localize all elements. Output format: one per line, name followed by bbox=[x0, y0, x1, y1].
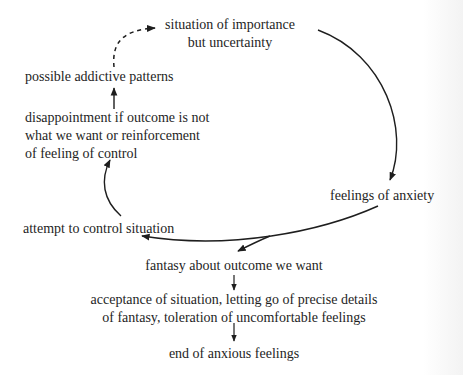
node-disappointment-line-3: of feeling of control bbox=[25, 145, 209, 163]
node-situation-line-1: situation of importance bbox=[162, 16, 298, 34]
arrow-addictive-to-situation bbox=[114, 28, 155, 67]
arrow-anxiety-to-control bbox=[142, 206, 378, 241]
arrow-control-to-disappointment bbox=[104, 160, 121, 216]
node-situation-line-2: but uncertainty bbox=[162, 34, 298, 52]
node-acceptance-line-1: acceptance of situation, letting go of p… bbox=[60, 291, 408, 309]
node-attempt-to-control: attempt to control situation bbox=[23, 220, 174, 238]
node-addictive-patterns: possible addictive patterns bbox=[25, 68, 174, 86]
node-disappointment: disappointment if outcome is not what we… bbox=[25, 109, 209, 163]
node-disappointment-line-2: what we want or reinforcement bbox=[25, 127, 209, 145]
node-end-of-anxious-feelings: end of anxious feelings bbox=[100, 345, 368, 363]
arrow-situation-to-anxiety bbox=[318, 30, 397, 180]
node-fantasy: fantasy about outcome we want bbox=[100, 257, 368, 275]
node-acceptance-line-2: of fantasy, toleration of uncomfortable … bbox=[60, 309, 408, 327]
node-acceptance: acceptance of situation, letting go of p… bbox=[60, 291, 408, 327]
node-disappointment-line-1: disappointment if outcome is not bbox=[25, 109, 209, 127]
node-situation: situation of importance but uncertainty bbox=[162, 16, 298, 52]
node-feelings-of-anxiety: feelings of anxiety bbox=[330, 187, 434, 205]
